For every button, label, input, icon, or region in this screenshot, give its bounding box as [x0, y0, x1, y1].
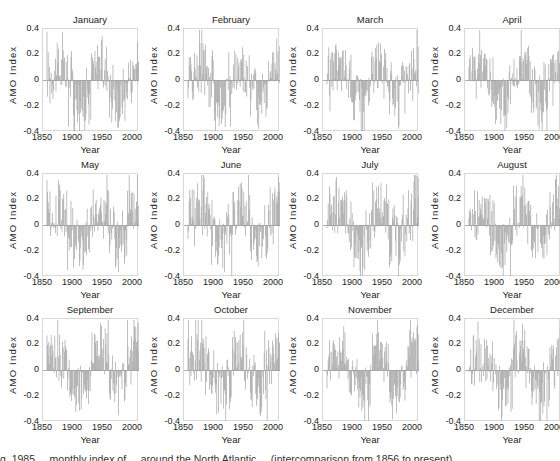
x-axis-label: Year — [221, 434, 240, 445]
x-tick-label: 1950 — [514, 423, 534, 432]
x-tick-label: 1900 — [484, 278, 504, 287]
x-tick-label: 1950 — [372, 423, 392, 432]
y-tick-label: -0.2 — [17, 246, 39, 255]
y-tick-label: 0.4 — [158, 169, 180, 178]
x-tick-label: 1950 — [372, 133, 392, 142]
y-tick-label: 0 — [17, 75, 39, 84]
panel-title: August — [497, 159, 527, 170]
y-tick-label: 0 — [297, 220, 319, 229]
x-tick-label: 1900 — [203, 278, 223, 287]
y-tick-label: 0.2 — [439, 194, 461, 203]
x-axis-label: Year — [502, 434, 521, 445]
plot-area — [42, 173, 138, 276]
x-tick-label: 1850 — [32, 423, 52, 432]
y-tick-label: -0.2 — [158, 246, 180, 255]
y-tick-label: -0.2 — [297, 101, 319, 110]
y-tick-label: 0 — [439, 75, 461, 84]
plot-area — [42, 318, 138, 421]
x-tick-label: 2000 — [544, 133, 560, 142]
y-tick-label: 0.2 — [439, 339, 461, 348]
x-tick-label: 1950 — [92, 423, 112, 432]
panel-title: October — [214, 304, 248, 315]
x-tick-label: 1850 — [173, 423, 193, 432]
y-tick-label: 0.4 — [439, 314, 461, 323]
y-axis-label: AMO Index — [148, 190, 159, 248]
y-tick-label: -0.2 — [17, 101, 39, 110]
x-tick-label: 1900 — [342, 278, 362, 287]
y-tick-label: 0.2 — [158, 49, 180, 58]
y-tick-label: 0.2 — [158, 194, 180, 203]
x-tick-label: 1950 — [92, 133, 112, 142]
x-axis-label: Year — [360, 289, 379, 300]
x-tick-label: 2000 — [263, 423, 283, 432]
x-tick-label: 1900 — [203, 423, 223, 432]
y-tick-label: 0 — [158, 365, 180, 374]
y-tick-label: 0.2 — [439, 49, 461, 58]
x-tick-label: 2000 — [122, 133, 142, 142]
x-tick-label: 1850 — [173, 133, 193, 142]
x-tick-label: 2000 — [263, 278, 283, 287]
y-tick-label: 0.2 — [297, 339, 319, 348]
x-tick-label: 2000 — [263, 133, 283, 142]
x-axis-label: Year — [360, 144, 379, 155]
x-tick-label: 2000 — [402, 278, 422, 287]
y-tick-label: 0.4 — [439, 169, 461, 178]
x-tick-label: 1950 — [514, 133, 534, 142]
x-tick-label: 1850 — [312, 423, 332, 432]
x-tick-label: 1900 — [484, 423, 504, 432]
plot-area — [183, 28, 279, 131]
y-axis-label: AMO Index — [429, 45, 440, 103]
x-axis-label: Year — [360, 434, 379, 445]
x-tick-label: 1850 — [454, 423, 474, 432]
x-tick-label: 1900 — [62, 423, 82, 432]
y-tick-label: 0.4 — [297, 314, 319, 323]
x-axis-label: Year — [221, 144, 240, 155]
x-tick-label: 1900 — [484, 133, 504, 142]
y-tick-label: 0.4 — [439, 24, 461, 33]
x-tick-label: 1950 — [233, 133, 253, 142]
plot-area — [183, 318, 279, 421]
y-axis-label: AMO Index — [287, 190, 298, 248]
panel-title: July — [362, 159, 379, 170]
figure-caption: g. 1985 ... monthly index of ... around … — [0, 452, 560, 461]
y-tick-label: 0.4 — [297, 169, 319, 178]
x-tick-label: 1900 — [342, 133, 362, 142]
y-tick-label: 0 — [297, 365, 319, 374]
x-tick-label: 1950 — [372, 278, 392, 287]
y-tick-label: 0 — [158, 220, 180, 229]
y-tick-label: -0.2 — [439, 101, 461, 110]
x-tick-label: 1950 — [233, 278, 253, 287]
x-tick-label: 1900 — [342, 423, 362, 432]
y-axis-label: AMO Index — [148, 45, 159, 103]
y-tick-label: -0.2 — [158, 391, 180, 400]
x-tick-label: 1850 — [454, 133, 474, 142]
x-tick-label: 2000 — [402, 423, 422, 432]
y-tick-label: 0 — [17, 220, 39, 229]
panel-title: September — [67, 304, 113, 315]
y-tick-label: 0 — [297, 75, 319, 84]
x-tick-label: 1850 — [32, 133, 52, 142]
plot-area — [464, 173, 560, 276]
y-axis-label: AMO Index — [287, 45, 298, 103]
y-tick-label: 0.2 — [17, 49, 39, 58]
y-tick-label: -0.2 — [158, 101, 180, 110]
x-tick-label: 2000 — [122, 278, 142, 287]
y-tick-label: 0 — [158, 75, 180, 84]
x-tick-label: 2000 — [402, 133, 422, 142]
plot-area — [322, 318, 418, 421]
x-axis-label: Year — [502, 289, 521, 300]
y-tick-label: -0.2 — [439, 246, 461, 255]
y-tick-label: 0.4 — [297, 24, 319, 33]
y-tick-label: 0.2 — [297, 49, 319, 58]
x-tick-label: 1950 — [514, 278, 534, 287]
x-axis-label: Year — [502, 144, 521, 155]
plot-area — [322, 28, 418, 131]
panel-title: June — [221, 159, 242, 170]
x-tick-label: 2000 — [544, 423, 560, 432]
y-axis-label: AMO Index — [7, 335, 18, 393]
x-tick-label: 1850 — [454, 278, 474, 287]
y-tick-label: 0.4 — [158, 24, 180, 33]
x-tick-label: 1900 — [62, 133, 82, 142]
x-axis-label: Year — [80, 289, 99, 300]
y-axis-label: AMO Index — [7, 45, 18, 103]
